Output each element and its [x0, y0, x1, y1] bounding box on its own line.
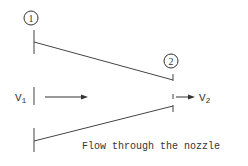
station-2-label: 2 [169, 56, 174, 67]
nozzle-top-wall [34, 42, 173, 80]
station-2-marker: 2 [164, 54, 178, 68]
inlet-velocity-label: V1 [15, 92, 27, 105]
nozzle-diagram: 1 2 V1 V2 Flow through the nozzle [0, 0, 248, 166]
station-1-label: 1 [29, 13, 34, 24]
diagram-caption: Flow through the nozzle [82, 141, 220, 152]
station-1-marker: 1 [24, 11, 38, 25]
inlet-flow-arrow [45, 95, 88, 100]
outlet-velocity-label: V2 [199, 92, 211, 105]
outlet-flow-arrow [176, 95, 195, 100]
nozzle-bottom-wall [34, 106, 173, 141]
